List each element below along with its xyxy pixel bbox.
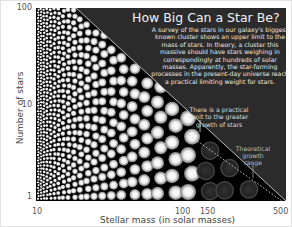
chart-title: How Big Can a Star Be? — [132, 10, 280, 25]
limit-annotation: There is a practical limit to the greate… — [185, 106, 253, 128]
x-axis-label: Stellar mass (in solar masses) — [100, 215, 235, 225]
y-tick-100: 100 — [12, 3, 32, 12]
x-tick-500: 500 — [273, 207, 288, 216]
y-axis-label: Number of stars — [15, 68, 25, 148]
y-tick-1: 1 — [12, 192, 32, 201]
chart-description: A survey of the stars in our galaxy's bi… — [150, 26, 290, 85]
growth-range-annotation: Theoretical growth range — [233, 145, 273, 167]
x-tick-10: 10 — [32, 207, 42, 216]
